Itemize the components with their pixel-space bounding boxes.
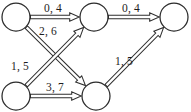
flow-network-diagram: 0, 40, 42, 61, 53, 71, 5 [0,0,191,112]
edge-bottom-middle-to-top-right [105,28,164,87]
edge-bottom-left-to-top-middle-label: 1, 5 [11,60,29,73]
node-top-right [160,3,188,31]
edge-top-left-to-bottom-middle-label: 2, 6 [39,25,57,38]
edge-bottom-middle-to-top-right-label: 1, 5 [115,55,133,68]
node-layer [2,3,188,110]
edge-top-left-to-top-middle-label: 0, 4 [44,2,62,15]
diagram-canvas: 0, 40, 42, 61, 53, 71, 5 [0,0,191,112]
edge-top-middle-to-top-right-label: 0, 4 [122,2,140,15]
node-bottom-middle [82,82,110,110]
edge-bottom-left-to-bottom-middle-label: 3, 7 [46,81,64,94]
node-top-left [2,3,30,31]
node-top-middle [80,3,108,31]
node-bottom-left [2,82,30,110]
